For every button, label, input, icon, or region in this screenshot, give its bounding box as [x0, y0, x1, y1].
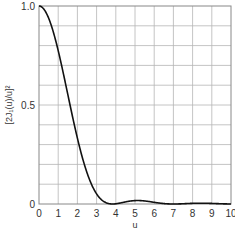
- x-tick-label: 2: [75, 208, 81, 219]
- x-tick-label: 0: [36, 208, 42, 219]
- x-tick-label: 1: [55, 208, 61, 219]
- x-tick-label: 10: [225, 208, 235, 219]
- x-tick-label: 6: [151, 208, 157, 219]
- x-axis-ticks: 012345678910: [36, 208, 235, 219]
- y-axis-ticks: 00.51.0: [21, 1, 35, 210]
- grid-lines: [39, 6, 231, 204]
- x-tick-label: 4: [113, 208, 119, 219]
- x-tick-label: 3: [94, 208, 100, 219]
- x-axis-label: u: [132, 220, 137, 230]
- y-tick-label: 1.0: [21, 1, 35, 12]
- airy-pattern-chart: 012345678910 00.51.0 u [2J₁(u)/u]²: [0, 0, 235, 235]
- x-tick-label: 8: [190, 208, 196, 219]
- x-tick-label: 7: [171, 208, 177, 219]
- x-tick-label: 5: [132, 208, 138, 219]
- y-tick-label: 0: [29, 199, 35, 210]
- y-tick-label: 0.5: [21, 100, 35, 111]
- y-axis-label: [2J₁(u)/u]²: [4, 85, 14, 124]
- x-tick-label: 9: [209, 208, 215, 219]
